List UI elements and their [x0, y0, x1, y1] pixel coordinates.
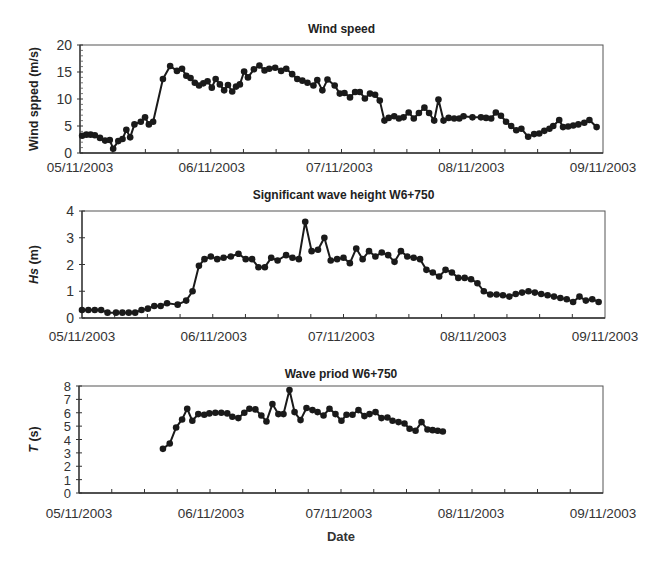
svg-text:06/11/2003: 06/11/2003 — [178, 506, 245, 521]
svg-text:08/11/2003: 08/11/2003 — [440, 329, 507, 344]
svg-text:09/11/2003: 09/11/2003 — [572, 329, 639, 344]
svg-text:08/11/2003: 08/11/2003 — [438, 160, 505, 175]
y-axis-label: Hs (m) — [27, 245, 41, 284]
svg-text:07/11/2003: 07/11/2003 — [306, 160, 373, 175]
plot-frame — [82, 211, 605, 318]
svg-text:3: 3 — [66, 230, 74, 246]
svg-text:10: 10 — [56, 91, 72, 107]
svg-text:6: 6 — [64, 406, 71, 421]
panel-wind-speed: Wind speed Wind spped (m/s) 05101520 05/… — [27, 22, 636, 175]
svg-text:09/11/2003: 09/11/2003 — [570, 160, 637, 175]
panel-significant-wave-height: Significant wave height W6+750 Hs (m) 01… — [27, 188, 638, 344]
y-axis-label: T (s) — [27, 426, 41, 452]
svg-text:05/11/2003: 05/11/2003 — [47, 160, 114, 175]
chart-title: Wave priod W6+750 — [285, 367, 398, 381]
svg-text:7: 7 — [64, 392, 71, 407]
y-axis-label: Wind spped (m/s) — [27, 47, 41, 151]
svg-text:4: 4 — [64, 433, 71, 448]
data-series — [79, 218, 602, 316]
svg-text:0: 0 — [64, 145, 72, 161]
svg-text:20: 20 — [56, 37, 72, 53]
svg-text:06/11/2003: 06/11/2003 — [181, 329, 248, 344]
svg-text:1: 1 — [64, 473, 71, 488]
data-series — [79, 62, 600, 152]
x-axis-label-date: Date — [327, 529, 355, 544]
y-axis-ticks: 05101520 — [56, 37, 83, 161]
svg-text:08/11/2003: 08/11/2003 — [438, 506, 505, 521]
x-axis-ticks: 05/11/200306/11/200307/11/200308/11/2003… — [46, 489, 637, 521]
svg-text:07/11/2003: 07/11/2003 — [308, 329, 375, 344]
svg-text:5: 5 — [64, 118, 72, 134]
svg-text:1: 1 — [66, 283, 74, 299]
svg-text:2: 2 — [64, 459, 71, 474]
svg-text:06/11/2003: 06/11/2003 — [179, 160, 246, 175]
svg-text:3: 3 — [64, 446, 71, 461]
svg-text:5: 5 — [64, 419, 71, 434]
svg-text:07/11/2003: 07/11/2003 — [306, 506, 373, 521]
svg-text:0: 0 — [66, 310, 74, 326]
svg-text:05/11/2003: 05/11/2003 — [46, 506, 113, 521]
panel-wave-period: Wave priod W6+750 T (s) 012345678 05/11/… — [27, 367, 636, 521]
svg-text:05/11/2003: 05/11/2003 — [49, 329, 116, 344]
plot-frame — [79, 386, 603, 493]
figure: Wind speed Wind spped (m/s) 05101520 05/… — [0, 0, 669, 565]
svg-text:4: 4 — [66, 203, 74, 219]
svg-text:8: 8 — [64, 379, 71, 394]
chart-title: Wind speed — [308, 22, 375, 36]
svg-text:09/11/2003: 09/11/2003 — [570, 506, 637, 521]
svg-text:2: 2 — [66, 257, 74, 273]
chart-title: Significant wave height W6+750 — [253, 188, 435, 202]
svg-text:15: 15 — [56, 64, 72, 80]
data-series — [160, 387, 446, 452]
svg-text:0: 0 — [64, 486, 71, 501]
